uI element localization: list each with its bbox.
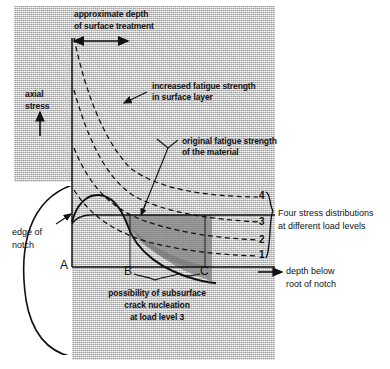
stress-curve-4 — [74, 38, 258, 197]
curve-label-3: 3 — [259, 216, 265, 227]
surface-depth-label-line2: of surface treatment — [74, 21, 154, 32]
original-strength-label-line1: original fatigue strength — [182, 136, 277, 147]
fatigue-diagram-figure: approximate depth of surface treatment i… — [0, 0, 390, 369]
curve-label-1: 1 — [259, 249, 265, 260]
surface-depth-label-line1: approximate depth — [74, 9, 148, 20]
increased-strength-leader — [124, 92, 147, 103]
axial-stress-label-line1: axial — [25, 89, 43, 100]
axial-stress-label-line2: stress — [25, 101, 49, 112]
original-strength-leader — [141, 139, 178, 215]
point-label-a: A — [60, 258, 68, 272]
subsurface-label-line3: at load level 3 — [82, 312, 232, 323]
point-label-b: B — [124, 264, 132, 278]
increased-strength-label-line2: in surface layer — [152, 92, 213, 103]
subsurface-label-line1: possibility of subsurface — [82, 288, 232, 299]
curve-label-4: 4 — [259, 190, 265, 201]
depth-axis-label-line1: depth below — [286, 265, 335, 277]
curve-label-2: 2 — [259, 234, 265, 245]
original-strength-label-line2: of the material — [182, 147, 239, 158]
edge-of-notch-label-line2: notch — [12, 239, 34, 251]
subsurface-brace — [134, 274, 178, 280]
increased-strength-label-line1: increased fatigue strength — [152, 81, 256, 92]
stress-distributions-label-line2: at different load levels — [278, 220, 365, 232]
subsurface-label-line2: crack nucleation — [82, 300, 232, 311]
edge-of-notch-label-line1: edge of — [12, 226, 42, 238]
point-label-c: C — [200, 264, 209, 278]
stress-distributions-label-line1: Four stress distributions — [278, 207, 374, 219]
depth-axis-label-line2: root of notch — [286, 278, 336, 290]
stress-distributions-brace — [266, 192, 273, 258]
